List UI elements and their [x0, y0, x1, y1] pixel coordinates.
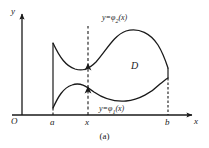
- x-axis-label: x: [194, 117, 198, 126]
- upper-curve-label: y=φ2(x): [102, 14, 127, 24]
- tick-label-b: b: [165, 118, 170, 127]
- region-label-d: D: [131, 61, 138, 71]
- lower-curve-label-prefix: y=: [99, 104, 108, 113]
- lower-curve-label: y=φ1(x): [99, 105, 124, 115]
- upper-curve-label-arg: (x): [118, 13, 127, 22]
- figure-caption: (a): [0, 131, 209, 141]
- upper-curve: [53, 30, 168, 70]
- y-axis-label: y: [11, 7, 15, 16]
- tick-label-a: a: [50, 118, 55, 127]
- lower-curve-label-arg: (x): [115, 104, 124, 113]
- tick-label-x: x: [85, 118, 89, 127]
- figure-container: y x O a x b D y=φ2(x) y=φ1(x) (a): [0, 0, 209, 148]
- origin-label: O: [11, 117, 18, 126]
- upper-curve-label-prefix: y=: [102, 13, 111, 22]
